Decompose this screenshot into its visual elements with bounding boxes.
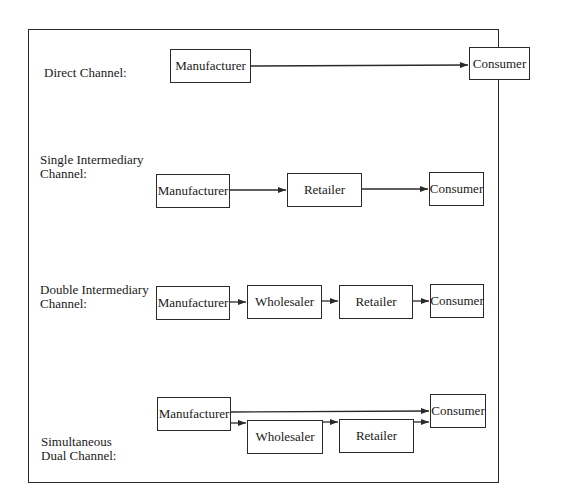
flow-arrows [0, 0, 572, 500]
arrow-manufacturer-to-consumer-dual [231, 411, 429, 412]
arrow-manufacturer-to-consumer-direct [251, 65, 468, 66]
